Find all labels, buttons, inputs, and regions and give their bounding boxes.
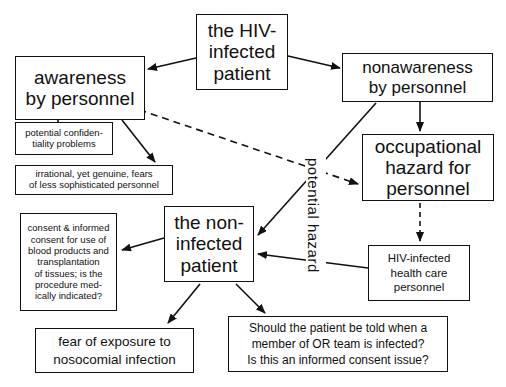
node-irrational-fears: irrational, yet genuine, fears of less s… bbox=[15, 165, 173, 195]
node-hiv-infected-health-care-personnel: HIV-infected health care personnel bbox=[368, 245, 470, 301]
node-occupational-hazard: occupational hazard for personnel bbox=[362, 134, 494, 201]
node-consent: consent & informed consent for use of bl… bbox=[20, 213, 117, 311]
node-confidentiality-problems: potential confiden- tiality problems bbox=[15, 122, 113, 155]
node-should-patient-be-told: Should the patient be told when a member… bbox=[228, 316, 448, 372]
node-noninfected-patient: the non- infected patient bbox=[164, 206, 254, 282]
node-hiv-infected-patient: the HIV- infected patient bbox=[196, 14, 288, 90]
edge-label-potential-hazard: potential hazard bbox=[305, 158, 322, 273]
node-fear-of-exposure: fear of exposure to nosocomial infection bbox=[35, 328, 194, 373]
node-nonawareness-by-personnel: nonawareness by personnel bbox=[342, 53, 493, 102]
node-awareness-by-personnel: awareness by personnel bbox=[15, 56, 145, 120]
